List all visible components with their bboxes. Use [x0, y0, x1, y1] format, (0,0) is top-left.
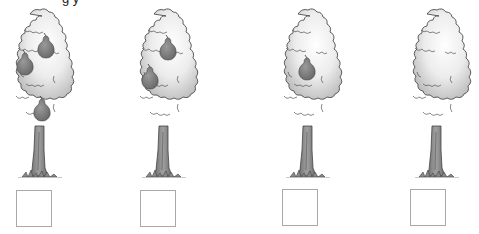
answer-box-2[interactable] [140, 190, 176, 227]
tree-illustration-3 [258, 0, 358, 185]
pear-icon [34, 96, 50, 121]
tree-illustration-1 [0, 0, 90, 185]
answer-box-3[interactable] [282, 189, 318, 226]
tree-illustration-2 [114, 0, 214, 185]
answer-box-4[interactable] [410, 189, 446, 226]
tree-illustration-4 [387, 0, 479, 185]
answer-box-1[interactable] [16, 190, 52, 227]
